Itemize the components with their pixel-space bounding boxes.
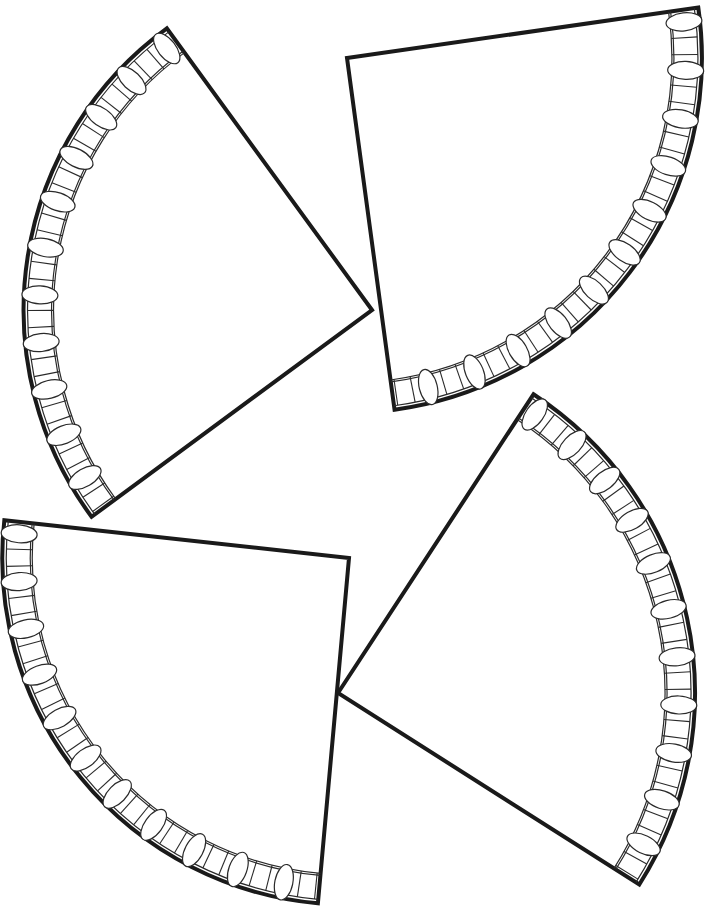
- wedge-bottom-right: [338, 394, 697, 884]
- coloring-canvas: [0, 0, 713, 915]
- wedge-outline: [338, 394, 695, 884]
- rim-segment-line: [6, 566, 32, 567]
- wedge-top-right: [347, 8, 704, 410]
- rim-segment-line: [6, 549, 32, 550]
- wedge-outline: [24, 28, 372, 516]
- wedge-bottom-left: [1, 520, 349, 903]
- wedge-top-left: [22, 28, 372, 516]
